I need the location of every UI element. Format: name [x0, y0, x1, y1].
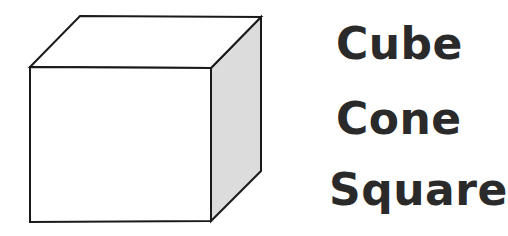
option-cube-label[interactable]: Cube	[336, 22, 463, 66]
cube-front-face	[30, 67, 211, 222]
option-square-label[interactable]: Square	[329, 168, 508, 212]
cube-illustration	[0, 0, 290, 236]
option-cone-label[interactable]: Cone	[336, 97, 462, 141]
